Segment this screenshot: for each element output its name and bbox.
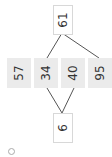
cell-value: 57	[12, 65, 26, 80]
edge-bottom-34	[47, 88, 62, 113]
array-cell-0: 57	[7, 58, 31, 88]
array-cell-3: 95	[88, 58, 112, 88]
cell-value: 40	[66, 65, 80, 80]
edge-top-34	[47, 33, 62, 58]
array-cell-1: 34	[34, 58, 58, 88]
edge-bottom-40	[62, 88, 74, 113]
bottom-node: 6	[53, 113, 73, 143]
edge-top-95	[62, 33, 99, 58]
top-node-value: 61	[56, 12, 70, 27]
settings-circle-icon[interactable]	[8, 148, 15, 155]
bottom-node-value: 6	[56, 124, 70, 132]
cell-value: 95	[93, 65, 107, 80]
top-node: 61	[53, 5, 73, 35]
cell-value: 34	[39, 65, 53, 80]
array-cell-2: 40	[61, 58, 85, 88]
